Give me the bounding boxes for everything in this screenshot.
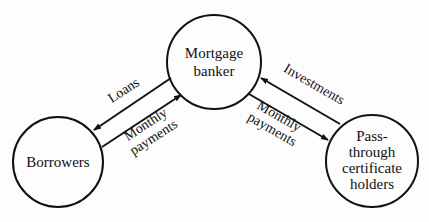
node-label-line: Pass- — [356, 128, 388, 144]
node-pass-through-holders: Pass- through certificate holders — [326, 115, 418, 207]
node-label-line: banker — [194, 63, 235, 79]
node-label-line: through — [349, 144, 396, 160]
node-label-line: holders — [350, 176, 394, 192]
edge-passthrough-payments: Monthly payments — [245, 94, 328, 149]
node-label-line: Borrowers — [26, 154, 89, 170]
node-mortgage-banker: Mortgage banker — [167, 15, 261, 109]
diagram-svg: Mortgage banker Borrowers Pass- through … — [0, 0, 429, 222]
node-label-line: certificate — [342, 160, 402, 176]
edge-label-line: Investments — [281, 61, 347, 108]
cash-flow-diagram: Mortgage banker Borrowers Pass- through … — [0, 0, 429, 222]
node-label-line: Mortgage — [185, 45, 244, 61]
node-borrowers: Borrowers — [13, 117, 103, 207]
